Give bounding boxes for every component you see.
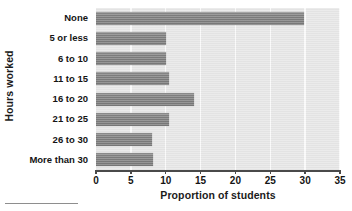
x-tick-label: 35: [325, 175, 352, 186]
x-tick-mark: [339, 170, 341, 174]
x-tick-label: 30: [290, 175, 320, 186]
gridline-15: [200, 8, 201, 170]
x-tick-mark: [165, 170, 167, 174]
y-tick-label: 16 to 20: [53, 89, 88, 109]
bar: [96, 72, 169, 85]
bar: [96, 12, 304, 25]
y-tick-label: 11 to 15: [53, 69, 88, 89]
x-tick-label: 25: [255, 175, 285, 186]
footer-rule: [5, 203, 78, 204]
x-axis-line: [96, 170, 340, 172]
y-tick-label: More than 30: [29, 150, 88, 170]
x-tick-mark: [95, 170, 97, 174]
x-tick-label: 5: [116, 175, 146, 186]
plot-area: [96, 8, 340, 170]
bar: [96, 153, 153, 166]
y-tick-label: 26 to 30: [53, 130, 88, 150]
x-tick-label: 15: [186, 175, 216, 186]
bar: [96, 93, 194, 106]
x-tick-label: 20: [220, 175, 250, 186]
y-tick-label: 5 or less: [49, 28, 88, 48]
x-tick-mark: [304, 170, 306, 174]
y-axis-tick-labels: None5 or less6 to 1011 to 1516 to 2021 t…: [18, 8, 92, 170]
bar: [96, 32, 166, 45]
x-tick-mark: [235, 170, 237, 174]
x-tick-mark: [130, 170, 132, 174]
gridline-20: [235, 8, 236, 170]
gridline-35: [339, 8, 340, 170]
bar: [96, 113, 169, 126]
y-tick-label: None: [64, 8, 88, 28]
y-axis-title: Hours worked: [0, 0, 18, 172]
x-axis-title: Proportion of students: [96, 189, 340, 201]
bar: [96, 52, 166, 65]
x-tick-label: 10: [151, 175, 181, 186]
x-tick-label: 0: [81, 175, 111, 186]
x-tick-mark: [200, 170, 202, 174]
y-tick-label: 6 to 10: [58, 49, 88, 69]
gridline-30: [304, 8, 305, 170]
y-tick-label: 21 to 25: [53, 109, 88, 129]
x-tick-mark: [270, 170, 272, 174]
gridline-25: [270, 8, 271, 170]
bar-chart-figure: Hours worked None5 or less6 to 1011 to 1…: [0, 0, 352, 211]
y-axis-title-label: Hours worked: [3, 50, 15, 121]
bar: [96, 133, 152, 146]
